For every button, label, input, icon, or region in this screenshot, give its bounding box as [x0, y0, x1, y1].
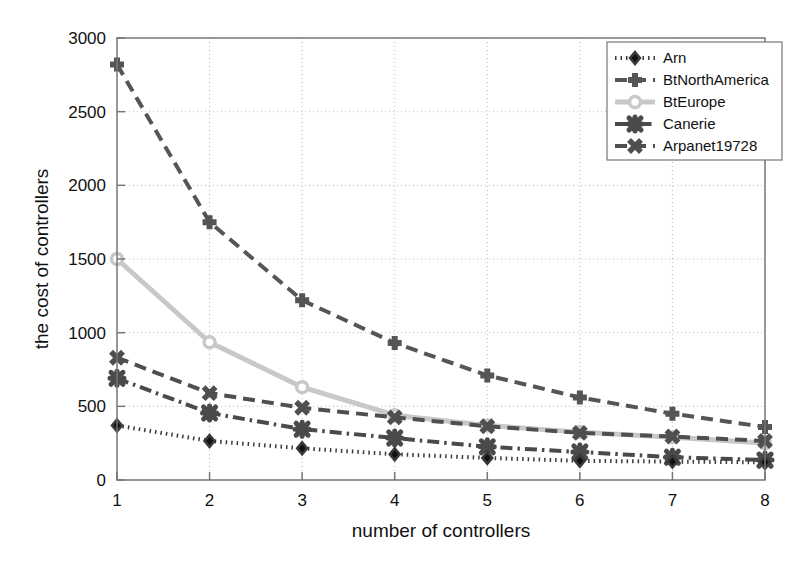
- data-point-marker: [295, 422, 309, 436]
- tick-label-y: 1500: [68, 250, 106, 269]
- legend-label-arpanet19728: Arpanet19728: [663, 137, 757, 154]
- marker-circle: [204, 337, 215, 348]
- legend-label-canerie: Canerie: [663, 115, 716, 132]
- marker-hexagram: [388, 431, 402, 445]
- legend: ArnBtNorthAmericaBtEuropeCanerieArpanet1…: [607, 42, 782, 160]
- data-point-marker: [628, 117, 642, 131]
- tick-label-x: 1: [112, 491, 121, 510]
- legend-label-bteurope: BtEurope: [663, 93, 726, 110]
- marker-hexagram: [628, 117, 642, 131]
- data-point-marker: [204, 337, 215, 348]
- line-chart-svg: 05001000150020002500300012345678number o…: [0, 0, 802, 567]
- tick-label-x: 2: [205, 491, 214, 510]
- tick-label-y: 3000: [68, 29, 106, 48]
- data-point-marker: [630, 97, 641, 108]
- tick-label-x: 6: [575, 491, 584, 510]
- tick-label-x: 5: [483, 491, 492, 510]
- marker-circle: [297, 382, 308, 393]
- chart-figure: 05001000150020002500300012345678number o…: [0, 0, 802, 567]
- tick-label-y: 2000: [68, 176, 106, 195]
- tick-label-x: 3: [297, 491, 306, 510]
- tick-label-y: 2500: [68, 103, 106, 122]
- x-axis-title: number of controllers: [352, 520, 530, 541]
- tick-label-y: 500: [78, 397, 106, 416]
- tick-label-x: 8: [760, 491, 769, 510]
- legend-label-arn: Arn: [663, 49, 686, 66]
- tick-label-y: 0: [97, 471, 106, 490]
- tick-label-x: 7: [668, 491, 677, 510]
- tick-label-x: 4: [390, 491, 399, 510]
- data-point-marker: [203, 406, 217, 420]
- marker-hexagram: [295, 422, 309, 436]
- data-point-marker: [297, 382, 308, 393]
- legend-label-btnorthamerica: BtNorthAmerica: [663, 71, 770, 88]
- marker-hexagram: [203, 406, 217, 420]
- y-axis-title: the cost of controllers: [31, 169, 52, 350]
- tick-label-y: 1000: [68, 324, 106, 343]
- marker-circle: [630, 97, 641, 108]
- data-point-marker: [388, 431, 402, 445]
